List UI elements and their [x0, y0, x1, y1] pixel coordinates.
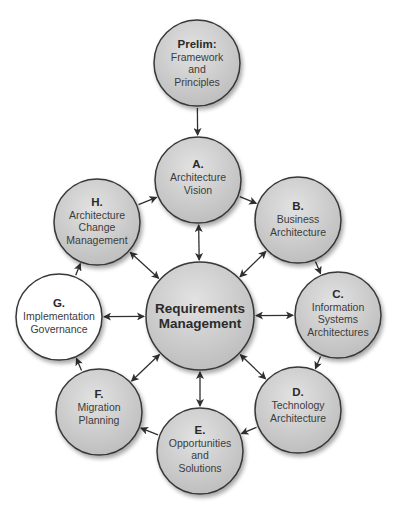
arrow-c-to-d: [315, 356, 320, 368]
node-d-circle: [255, 367, 341, 453]
arrow-g-to-h: [76, 264, 81, 275]
node-b-circle: [255, 177, 341, 263]
arrow-a-to-b: [240, 197, 256, 204]
node-prelim-circle: [154, 20, 240, 106]
bidirectional-arrow-rm-to-h: [130, 252, 158, 278]
adm-cycle-diagram: Prelim: Framework and Principles A. Arch…: [0, 0, 400, 516]
arrow-f-to-g: [76, 358, 81, 370]
node-rm-circle: [146, 262, 254, 370]
arrow-d-to-e: [242, 427, 257, 433]
arrow-e-to-f: [141, 428, 158, 435]
node-f-circle: [56, 369, 142, 455]
node-g-circle: [16, 274, 102, 360]
bidirectional-arrow-rm-to-d: [240, 355, 265, 379]
node-h-circle: [54, 179, 140, 265]
node-a-circle: [155, 137, 241, 223]
node-c-circle: [295, 272, 381, 358]
diagram-canvas: [0, 0, 400, 516]
bidirectional-arrow-rm-to-f: [132, 355, 160, 381]
bidirectional-arrow-rm-to-a: [199, 225, 200, 260]
arrow-h-to-a: [139, 197, 157, 204]
node-e-circle: [157, 408, 243, 494]
bidirectional-arrow-rm-to-b: [240, 251, 266, 276]
arrow-b-to-c: [315, 261, 320, 273]
